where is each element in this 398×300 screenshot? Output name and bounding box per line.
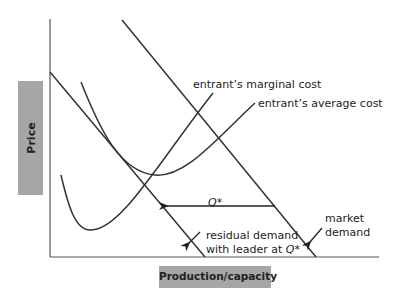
market-demand-label-line2: demand [325,226,370,239]
residual-demand-pointer-arrow [189,232,200,243]
y-axis-label: Price [24,122,37,153]
residual-demand-label-line1: residual demand [206,229,298,242]
y-axis-label-box: Price [18,81,43,195]
economics-diagram [0,0,398,300]
average-cost-label: entrant’s average cost [258,97,383,110]
residual-demand-label-line2: with leader at Q* [206,243,300,256]
q-star-label: Q* [208,196,222,209]
x-axis-label: Production/capacity [159,270,271,282]
residual-demand-line [50,72,205,257]
marginal-cost-curve [61,93,213,230]
x-axis-label-box: Production/capacity [159,266,271,288]
average-cost-curve [81,82,255,175]
market-demand-pointer-arrow [310,228,322,242]
marginal-cost-label: entrant’s marginal cost [193,78,321,91]
market-demand-label-line1: market [325,212,364,225]
